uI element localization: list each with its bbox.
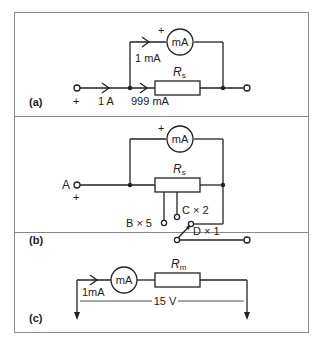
meter-label: mA	[172, 36, 189, 48]
terminal	[244, 85, 250, 91]
meter-label: mA	[116, 274, 133, 286]
panel-c-label: (c)	[29, 312, 43, 324]
meter-plus: +	[158, 122, 164, 134]
input-current-label: 1 A	[98, 95, 115, 107]
resistor-label: Rs	[173, 162, 186, 177]
multiplier-resistor	[155, 273, 200, 287]
meter-plus: +	[158, 24, 164, 36]
switch-pivot	[174, 237, 179, 242]
panel-b-label: (b)	[29, 234, 43, 246]
tap-b-terminal	[161, 220, 166, 225]
resistor-label: Rs	[173, 65, 186, 80]
resistor-label: Rm	[171, 257, 187, 272]
input-plus: +	[73, 191, 79, 203]
shunt-resistor	[155, 178, 200, 192]
panel-a	[74, 29, 250, 95]
input-plus: +	[73, 95, 79, 107]
tap-c-label: C × 2	[182, 204, 209, 216]
shunt-resistor	[155, 81, 200, 95]
terminal	[244, 237, 250, 243]
meter-label: mA	[172, 133, 189, 145]
circuit-figure: + mA 1 mA Rs + 1 A 999 mA (a) + mA Rs A …	[0, 0, 313, 345]
current-label: 1mA	[82, 286, 105, 298]
tap-d-label: D × 1	[193, 225, 220, 237]
branch-current-label: 1 mA	[135, 52, 161, 64]
panel-a-label: (a)	[29, 96, 43, 108]
terminal-a-label: A	[62, 178, 70, 192]
tap-b-label: B × 5	[126, 217, 152, 229]
voltage-label: 15 V	[154, 295, 177, 307]
shunt-current-label: 999 mA	[131, 95, 170, 107]
terminal	[74, 85, 80, 91]
panel-b	[74, 126, 250, 243]
tap-c-terminal	[174, 214, 179, 219]
